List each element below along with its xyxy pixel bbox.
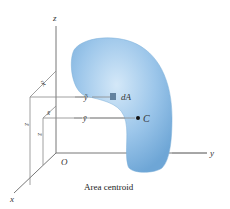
x-tilde-label: x̃ <box>38 78 48 88</box>
z-axis-label: z <box>52 13 57 23</box>
y-tilde-label: ỹ <box>83 93 88 102</box>
origin-label: O <box>61 157 68 167</box>
z-tilde-label: z̃ <box>23 122 31 126</box>
x-bar-label: x̄ <box>46 109 51 117</box>
centroid-point <box>136 116 140 120</box>
y-bar-label: ȳ <box>82 114 87 123</box>
x-axis <box>14 153 56 193</box>
x-axis-label: x <box>9 194 14 204</box>
centroid-label: C <box>143 113 150 124</box>
area-centroid-diagram: z y x O x̃ x̄ ỹ ȳ z̃ z̄ dA C Area centro… <box>0 0 230 209</box>
element-label: dA <box>121 92 132 102</box>
z-bar-label: z̄ <box>36 132 44 136</box>
area-shape <box>71 38 172 172</box>
y-axis-label: y <box>209 148 214 158</box>
figure-caption: Area centroid <box>84 182 134 192</box>
